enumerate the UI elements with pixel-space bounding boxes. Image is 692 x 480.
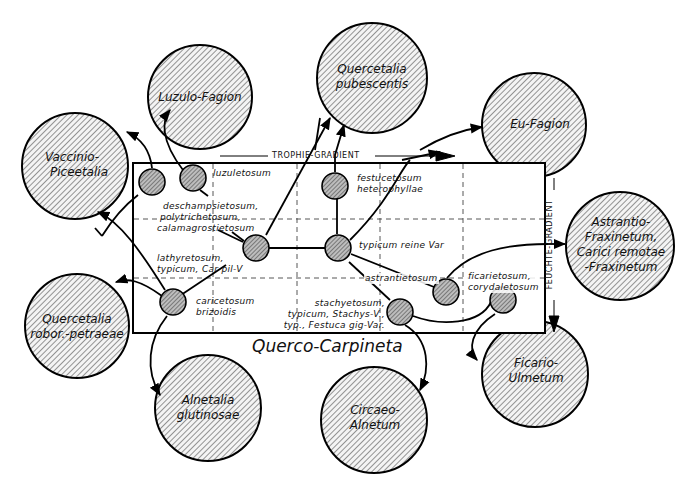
label-line: Quercetalia — [22, 312, 132, 327]
label-line: heterophyllae — [357, 184, 423, 195]
label-line: corydaletosum — [468, 282, 539, 293]
label-line: Luzulo-Fagion — [158, 90, 241, 104]
label-line: Eu-Fagion — [510, 117, 570, 131]
label-line: Fraxinetum, — [566, 230, 676, 245]
label-quercetalia-pubescentis: Quercetalia pubescentis — [320, 62, 424, 92]
node-stachyetosum — [387, 299, 413, 325]
label-line: pubescentis — [320, 77, 424, 92]
label-line: stachyetosum, — [273, 298, 385, 309]
label-line: Astrantio- — [566, 215, 676, 230]
node-luzuletosum — [180, 165, 206, 191]
label-line: polytrichetosum, — [160, 212, 258, 223]
label-line: caricetosum — [196, 296, 255, 307]
label-line: deschampsietosum, — [163, 201, 258, 212]
label-typicum-reine-var: typicum reine Var — [359, 240, 444, 251]
node-lathyretosum — [243, 235, 269, 261]
label-line: typ., Festuca gig-Var. — [273, 320, 385, 331]
label-ficarietosum: ficarietosum, corydaletosum — [467, 271, 540, 293]
label-caricetosum: caricetosum brizoidis — [196, 296, 255, 318]
label-line: brizoidis — [196, 307, 255, 318]
node-caricetosum — [160, 289, 186, 315]
label-vaccinio-piceetalia: Vaccinio- Piceetalia — [22, 150, 122, 180]
label-festucetosum: festucetosum heterophyllae — [357, 173, 423, 195]
label-eu-fagion: Eu-Fagion — [490, 117, 590, 132]
label-stachyetosum: stachyetosum, typicum, Stachys-V., typ.,… — [273, 298, 385, 331]
label-luzulo-fagion: Luzulo-Fagion — [148, 90, 252, 105]
vegetation-diagram: TROPHIE-GRADIENT FEUCHTE-GRADIENT Luzulo… — [0, 0, 692, 480]
node-typicum-reine — [325, 235, 351, 261]
label-line: Quercetalia — [320, 62, 424, 77]
label-line: calamagrostietosum — [157, 223, 258, 234]
diagram-title: Querco-Carpineta — [252, 336, 403, 356]
trophie-gradient-label: TROPHIE-GRADIENT — [272, 151, 360, 160]
label-astrantio-fraxinetum: Astrantio- Fraxinetum, Carici remotae -F… — [566, 215, 676, 275]
label-line: Carici remotae — [566, 245, 676, 260]
label-luzuletosum: luzuletosum — [213, 168, 271, 179]
label-line: Ficario- — [486, 356, 586, 371]
label-ficario-ulmetum: Ficario- Ulmetum — [486, 356, 586, 386]
label-line: typicum, Car pil-V — [157, 264, 243, 275]
label-line: -Fraxinetum — [566, 260, 676, 275]
label-line: typicum, Stachys-V., — [273, 309, 385, 320]
node-festucetosum — [322, 173, 348, 199]
label-circaeo-alnetum: Circaeo- Alnetum — [325, 403, 425, 433]
label-line: Alnetum — [325, 418, 425, 433]
label-line: festucetosum — [357, 173, 423, 184]
label-line: glutinosae — [158, 408, 258, 423]
label-deschampsietosum: deschampsietosum, polytrichetosum, calam… — [163, 201, 258, 234]
label-lathyretosum: lathyretosum, typicum, Car pil-V — [157, 253, 243, 275]
label-astrantietosum: astrantietosum — [364, 273, 439, 284]
feuchte-gradient-label: FEUCHTE-GRADIENT — [545, 200, 554, 290]
label-alnetalia-glutinosae: Alnetalia glutinosae — [158, 393, 258, 423]
label-line: Alnetalia — [158, 393, 258, 408]
label-line: Ulmetum — [486, 371, 586, 386]
label-line: Piceetalia — [22, 165, 122, 180]
label-quercetalia-robor-petraeae: Quercetalia robor.-petraeae — [22, 312, 132, 342]
label-line: robor.-petraeae — [22, 327, 132, 342]
node-deschampsietosum-left — [139, 169, 165, 195]
label-line: ficarietosum, — [468, 271, 539, 282]
label-line: Circaeo- — [325, 403, 425, 418]
label-line: Vaccinio- — [22, 150, 122, 165]
label-line: lathyretosum, — [157, 253, 243, 264]
